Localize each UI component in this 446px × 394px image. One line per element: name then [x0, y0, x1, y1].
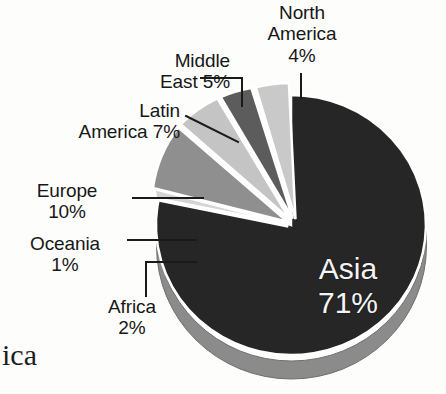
page-text-fragment: ica — [2, 340, 37, 370]
slice-label-africa: Africa 2% — [80, 296, 184, 339]
slice-label-asia: Asia 71% — [282, 252, 414, 319]
slice-label-oceania: Oceania 1% — [6, 233, 124, 276]
pie-chart-figure: North America 4% Middle East 5% Latin Am… — [0, 0, 446, 394]
slice-label-middle-east: Middle East 5% — [108, 50, 230, 93]
slice-label-europe: Europe 10% — [6, 180, 128, 223]
slice-label-latin-america: Latin America 7% — [14, 100, 180, 143]
slice-label-north-america: North America 4% — [248, 2, 356, 66]
